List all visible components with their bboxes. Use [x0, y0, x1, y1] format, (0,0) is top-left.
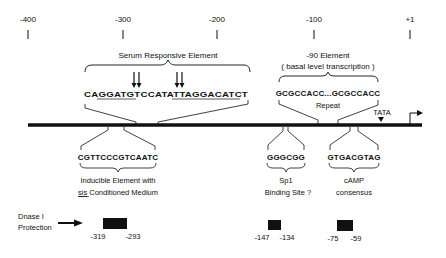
inducible-label-2: sis Conditioned Medium [78, 188, 158, 197]
region-end: -293 [125, 232, 140, 241]
arrow-down-icon [175, 72, 185, 88]
protection-box [337, 220, 353, 231]
camp-consensus: GTGACGTAG cAMP consensus [327, 127, 380, 197]
inducible-element: CGTTCCCGTCAATC Inducible Element with si… [78, 127, 158, 197]
sp1-brace [267, 163, 305, 172]
connector-line [158, 100, 248, 124]
region-end: -134 [279, 233, 294, 242]
sp1-binding-site: GGGCGG Sp1 Binding Site ? [265, 127, 311, 197]
connector-line [279, 100, 318, 124]
tata-label: TATA [373, 108, 391, 117]
tick-label: -300 [115, 15, 132, 24]
minus90-title: -90 Element [306, 51, 350, 60]
camp-sequence: GTGACGTAG [327, 153, 380, 162]
arrow-down-icon [132, 72, 142, 88]
protection-box [268, 220, 281, 230]
promoter-diagram: -400 -300 -200 -100 +1 Serum Responsive … [0, 0, 446, 258]
position-axis: -400 -300 -200 -100 +1 [20, 15, 415, 39]
arrow-right-icon [58, 220, 83, 227]
connector-line [124, 127, 155, 150]
serum-responsive-element: Serum Responsive Element CAGGATGTCCATATT… [84, 51, 250, 124]
minus90-subtitle: ( basal level transcription ) [281, 62, 375, 71]
minus90-sequence: GCGCCACC...GCGCCACC [276, 89, 381, 98]
region-start: -147 [254, 233, 269, 242]
connector-line [330, 127, 350, 150]
tata-box: TATA [373, 108, 391, 122]
sre-brace [85, 60, 250, 72]
tata-marker-icon [378, 117, 384, 122]
camp-brace [329, 163, 379, 172]
tick-label: -200 [209, 15, 226, 24]
inducible-sequence: CGTTCCCGTCAATC [78, 153, 158, 162]
connector-line [81, 127, 108, 150]
dnase-label-2: Protection [18, 223, 52, 232]
connector-line [288, 127, 304, 150]
transcription-start-arrow-icon [410, 110, 423, 124]
connector-line [85, 104, 136, 124]
region-end: -59 [351, 234, 362, 243]
dnase-protection: Dnase I Protection -319 -293 -147 -134 -… [18, 212, 361, 243]
tick-label: -400 [20, 15, 37, 24]
connector-line [358, 127, 378, 150]
sp1-label: Sp1 [279, 176, 292, 185]
camp-label: cAMP [344, 176, 364, 185]
sis-underlined: sis [78, 188, 87, 197]
camp-label-2: consensus [336, 188, 372, 197]
protection-box [103, 218, 127, 229]
inducible-brace [80, 163, 156, 172]
region-start: -319 [90, 232, 105, 241]
connector-line [268, 127, 283, 150]
repeat-label: Repeat [316, 101, 341, 110]
region-start: -75 [328, 234, 339, 243]
tick-label: -100 [306, 15, 323, 24]
minus90-brace [279, 72, 378, 82]
tick-label: +1 [405, 15, 415, 24]
minus-90-element: -90 Element ( basal level transcription … [276, 51, 381, 124]
dnase-label: Dnase I [18, 212, 44, 221]
connector-line [338, 100, 378, 124]
sre-sequence: CAGGATGTCCATATTAGGACATCT [84, 90, 248, 99]
inducible-label: Inducible Element with [80, 176, 155, 185]
sp1-label-2: Binding Site ? [265, 188, 311, 197]
sre-title: Serum Responsive Element [118, 51, 218, 60]
sp1-sequence: GGGCGG [267, 153, 305, 162]
